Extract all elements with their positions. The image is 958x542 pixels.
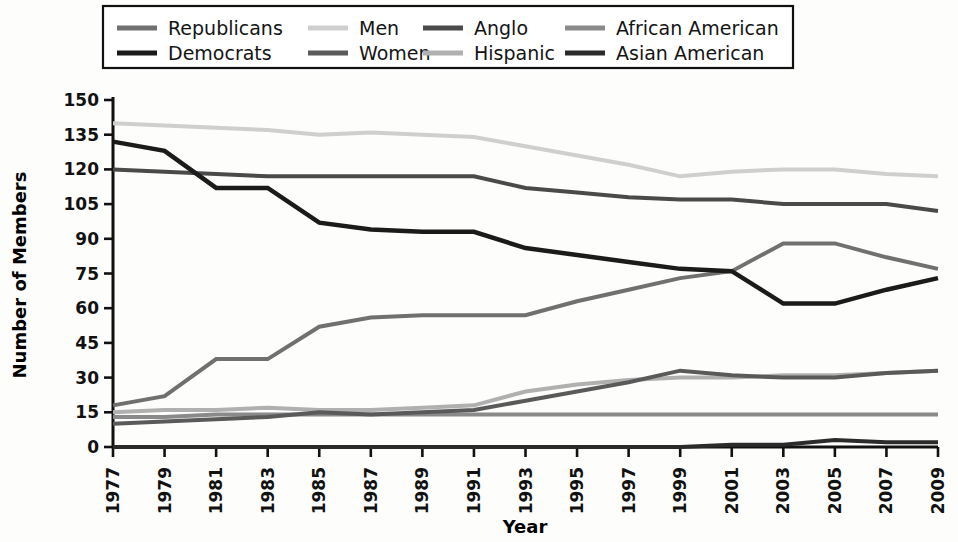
y-tick-label: 150 — [64, 90, 100, 110]
line-chart: RepublicansMenAngloAfrican AmericanDemoc… — [0, 0, 958, 542]
legend-label: Men — [359, 17, 399, 39]
x-tick-label: 1979 — [155, 467, 175, 514]
y-tick-label: 30 — [75, 368, 99, 388]
legend-label: Asian American — [616, 42, 764, 64]
x-tick-label: 1987 — [361, 467, 381, 514]
y-tick-label: 105 — [64, 194, 100, 214]
x-tick-label: 2009 — [928, 467, 948, 514]
y-tick-label: 135 — [64, 125, 100, 145]
x-axis-title: Year — [502, 516, 548, 537]
x-tick-label: 2005 — [825, 467, 845, 514]
chart-canvas: RepublicansMenAngloAfrican AmericanDemoc… — [0, 0, 958, 542]
x-tick-label: 1989 — [412, 467, 432, 514]
legend-label: Republicans — [168, 17, 283, 39]
x-tick-label: 1985 — [309, 467, 329, 514]
legend-label: Women — [359, 42, 431, 64]
chart-legend: RepublicansMenAngloAfrican AmericanDemoc… — [103, 6, 793, 68]
x-tick-label: 1997 — [619, 467, 639, 514]
y-tick-label: 120 — [64, 159, 100, 179]
x-tick-label: 2003 — [773, 467, 793, 514]
x-tick-label: 2007 — [876, 467, 896, 514]
y-tick-label: 45 — [75, 333, 99, 353]
y-tick-label: 0 — [87, 437, 99, 457]
x-tick-label: 1999 — [670, 467, 690, 514]
x-tick-label: 1991 — [464, 467, 484, 514]
x-tick-label: 1983 — [258, 467, 278, 514]
y-axis-title: Number of Members — [9, 172, 30, 379]
x-tick-label: 1977 — [103, 467, 123, 514]
legend-label: Democrats — [168, 42, 272, 64]
y-tick-label: 90 — [75, 229, 99, 249]
x-tick-label: 1981 — [206, 467, 226, 514]
y-tick-label: 15 — [75, 402, 99, 422]
x-tick-label: 1995 — [567, 467, 587, 514]
x-tick-label: 2001 — [722, 467, 742, 514]
chart-background — [0, 0, 958, 542]
legend-label: Anglo — [474, 17, 528, 39]
y-tick-label: 75 — [75, 264, 99, 284]
legend-label: African American — [616, 17, 779, 39]
x-tick-label: 1993 — [516, 467, 536, 514]
legend-label: Hispanic — [474, 42, 555, 64]
y-tick-label: 60 — [75, 298, 99, 318]
